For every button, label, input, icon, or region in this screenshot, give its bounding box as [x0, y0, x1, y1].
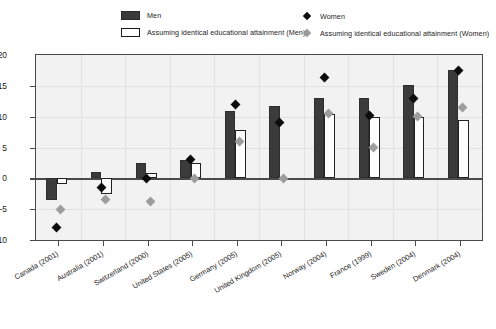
- x-axis-tick-mark: [103, 241, 104, 246]
- bar-men: [448, 70, 459, 178]
- x-axis-tick-mark: [192, 241, 193, 246]
- legend-swatch-women-diamond-icon: [302, 11, 314, 23]
- y-axis-tick-label: 20: [0, 51, 7, 59]
- gridline-vertical: [437, 55, 438, 240]
- bar-men: [225, 111, 236, 179]
- x-axis-tick-mark: [371, 241, 372, 246]
- bar-men-identical-attainment: [458, 120, 469, 179]
- bar-men-identical-attainment: [324, 114, 335, 179]
- gridline-vertical: [259, 55, 260, 240]
- marker-women-identical-attainment: [279, 173, 289, 183]
- bar-men: [91, 172, 102, 178]
- marker-women-identical-attainment: [100, 195, 110, 205]
- marker-women-identical-attainment: [56, 204, 66, 214]
- marker-women: [52, 223, 62, 233]
- x-axis-category-label: France (1999): [328, 250, 372, 280]
- bar-men-identical-attainment: [57, 178, 68, 184]
- y-axis-tick-label: 15: [0, 82, 7, 90]
- y-axis-tick-label: 5: [0, 144, 7, 152]
- chart-legend: Men Assuming identical educational attai…: [44, 11, 484, 44]
- x-axis-category-label: Denmark (2004): [411, 250, 461, 283]
- legend-label-men: Men: [147, 12, 161, 19]
- legend-item-women: Women: [302, 11, 345, 23]
- marker-women: [230, 99, 240, 109]
- y-axis-tick-label: -10: [0, 236, 7, 244]
- gridline-vertical: [348, 55, 349, 240]
- legend-item-men: Men: [121, 11, 161, 20]
- y-axis-tick-label: 0: [0, 174, 7, 182]
- x-axis-tick-mark: [148, 241, 149, 246]
- chart-figure: Men Assuming identical educational attai…: [0, 0, 496, 329]
- legend-item-men-identical: Assuming identical educational attainmen…: [121, 28, 305, 37]
- legend-swatch-women-identical-diamond-icon: [302, 28, 314, 40]
- x-axis-category-label: Sweden (2004): [370, 250, 417, 281]
- x-axis-tick-mark: [415, 241, 416, 246]
- x-axis-tick-mark: [237, 241, 238, 246]
- legend-swatch-men-identical-icon: [121, 28, 140, 37]
- x-axis-category-label: Canada (2001): [14, 250, 60, 281]
- y-axis-tick-label: 10: [0, 113, 7, 121]
- gridline-vertical: [304, 55, 305, 240]
- bar-men-identical-attainment: [414, 117, 425, 179]
- x-axis-tick-mark: [460, 241, 461, 246]
- x-axis-tick-mark: [281, 241, 282, 246]
- plot-inner: [36, 55, 482, 240]
- plot-area: [35, 54, 483, 241]
- gridline-vertical: [170, 55, 171, 240]
- marker-women-identical-attainment: [145, 197, 155, 207]
- legend-item-women-identical: Assuming identical educational attainmen…: [302, 28, 489, 40]
- bar-men: [46, 178, 57, 200]
- legend-label-women-identical: Assuming identical educational attainmen…: [320, 30, 489, 37]
- legend-label-women: Women: [320, 13, 345, 20]
- legend-swatch-men-icon: [121, 11, 140, 20]
- gridline-vertical: [214, 55, 215, 240]
- gridline-vertical: [81, 55, 82, 240]
- marker-women: [319, 73, 329, 83]
- gridline-vertical: [393, 55, 394, 240]
- x-axis-tick-mark: [326, 241, 327, 246]
- gridline-vertical: [125, 55, 126, 240]
- x-axis-category-label: Norway (2004): [282, 250, 328, 281]
- marker-women-identical-attainment: [457, 102, 467, 112]
- bar-men: [359, 98, 370, 178]
- bar-men: [314, 98, 325, 178]
- y-axis-tick-label: -5: [0, 205, 7, 213]
- x-axis-tick-mark: [58, 241, 59, 246]
- legend-label-men-identical: Assuming identical educational attainmen…: [147, 29, 305, 36]
